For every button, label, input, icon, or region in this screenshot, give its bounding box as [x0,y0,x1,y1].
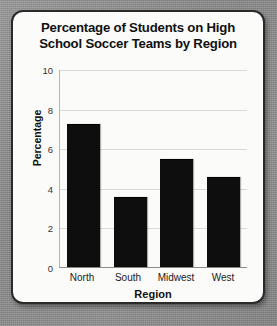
y-tick-label-8: 8 [27,104,53,115]
x-tick-label-north: North [70,272,94,283]
chart-card: Percentage of Students on High School So… [11,10,265,304]
bar-west[interactable] [207,177,240,267]
bar-south[interactable] [114,197,147,267]
chart-title: Percentage of Students on High School So… [23,20,253,51]
x-tick-label-west: West [212,272,235,283]
x-tick-label-south: South [115,272,141,283]
y-tick-label-10: 10 [27,65,53,76]
bar-north[interactable] [67,124,100,267]
y-tick-label-2: 2 [27,223,53,234]
x-axis-label: Region [59,288,247,300]
y-tick-label-6: 6 [27,144,53,155]
y-tick-label-0: 0 [27,263,53,274]
chart-title-line-2: School Soccer Teams by Region [23,36,253,52]
bar-midwest[interactable] [160,159,193,267]
x-tick-label-midwest: Midwest [158,272,195,283]
chart-title-line-1: Percentage of Students on High [23,20,253,36]
plot-area [59,70,247,268]
bar-series [60,70,247,267]
y-tick-label-4: 4 [27,183,53,194]
